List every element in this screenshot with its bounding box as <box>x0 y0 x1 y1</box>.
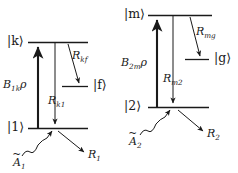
external-label-source-a1: ~A1 <box>13 157 26 170</box>
arrow-loss-r2 <box>178 110 203 131</box>
arrow-loss-r1 <box>58 131 84 152</box>
level-label-2: |2⟩ <box>124 100 141 113</box>
transition-label-decay-kf: Rkf <box>72 50 87 63</box>
arrow-source-a2 <box>140 110 170 135</box>
transition-label-pump-2m: B2mρ <box>121 57 147 70</box>
pump-1k-sub: 1k <box>11 84 20 93</box>
a2-sub: 2 <box>137 141 142 150</box>
level-label-1: |1⟩ <box>7 121 24 134</box>
decay-k1-sub: k1 <box>56 100 65 109</box>
arrow-source-a1 <box>22 131 52 156</box>
transition-label-decay-mg: Rmg <box>196 26 216 39</box>
pump-1k-base: B <box>3 78 11 91</box>
decay-m2-sub: m2 <box>171 78 182 87</box>
level-label-g: |g⟩ <box>214 52 231 65</box>
external-label-source-a2: ~A2 <box>129 136 142 149</box>
transition-label-decay-k1: Rk1 <box>48 95 65 108</box>
pump-2m-base: B <box>121 56 129 69</box>
a2-accent: ~ <box>128 128 137 138</box>
r2-sub: 2 <box>215 133 220 142</box>
external-label-loss-r2: R2 <box>207 128 220 141</box>
decay-mg-sub: mg <box>204 31 215 40</box>
pump-2m-sub: 2m <box>129 62 140 71</box>
external-label-loss-r1: R1 <box>88 149 101 162</box>
a1-accent: ~ <box>12 149 21 159</box>
energy-level-figure: |k⟩ |f⟩ |1⟩ B1kρ Rkf Rk1 ~A1 R1 |m⟩ |g⟩ … <box>0 0 238 173</box>
level-label-m: |m⟩ <box>124 8 145 21</box>
level-label-f: |f⟩ <box>93 79 107 92</box>
r1-sub: 1 <box>96 154 101 163</box>
a1-sub: 1 <box>21 162 26 171</box>
transition-label-pump-1k: B1kρ <box>3 79 27 92</box>
decay-kf-sub: kf <box>80 55 87 64</box>
level-label-k: |k⟩ <box>7 35 24 48</box>
transition-label-decay-m2: Rm2 <box>163 73 183 86</box>
pump-2m-tail: ρ <box>140 56 146 69</box>
pump-1k-tail: ρ <box>20 78 26 91</box>
